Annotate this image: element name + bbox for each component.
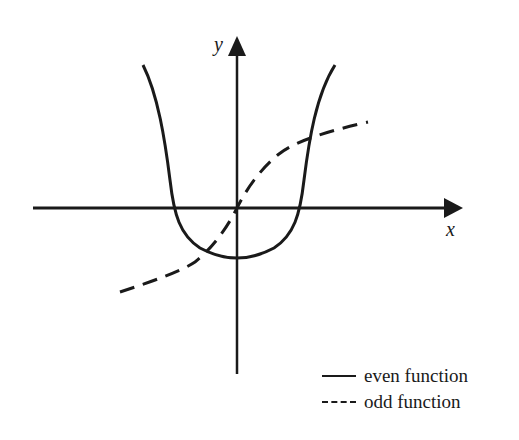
- legend-item-odd: odd function: [322, 389, 468, 415]
- dashed-line-icon: [322, 401, 356, 403]
- x-axis: [33, 198, 463, 218]
- x-axis-arrow-icon: [444, 198, 463, 218]
- even-function-curve: [143, 65, 335, 258]
- solid-line-icon: [322, 375, 356, 377]
- x-axis-label: x: [446, 219, 455, 239]
- legend-label-even: even function: [364, 363, 468, 389]
- legend-item-even: even function: [322, 363, 468, 389]
- legend-label-odd: odd function: [364, 389, 461, 415]
- y-axis-label: y: [214, 34, 223, 54]
- legend: even function odd function: [322, 363, 468, 415]
- y-axis-arrow-icon: [228, 36, 246, 56]
